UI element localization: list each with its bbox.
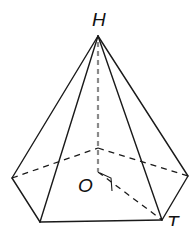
hidden-edge-back-right: [98, 148, 188, 176]
pyramid-diagram: H O T: [0, 0, 192, 226]
base-edge-front: [40, 220, 162, 222]
pyramid-drawing: [0, 0, 192, 226]
lateral-edge-left: [12, 36, 98, 178]
label-center-O: O: [78, 176, 93, 195]
lateral-edge-HT: [98, 36, 162, 220]
base-edge-left: [12, 178, 40, 222]
right-angle-marker: [100, 173, 112, 191]
label-vertex-T: T: [167, 213, 179, 226]
label-apex-H: H: [92, 10, 106, 29]
lateral-edge-right: [98, 36, 188, 176]
segment-OT: [98, 172, 162, 220]
